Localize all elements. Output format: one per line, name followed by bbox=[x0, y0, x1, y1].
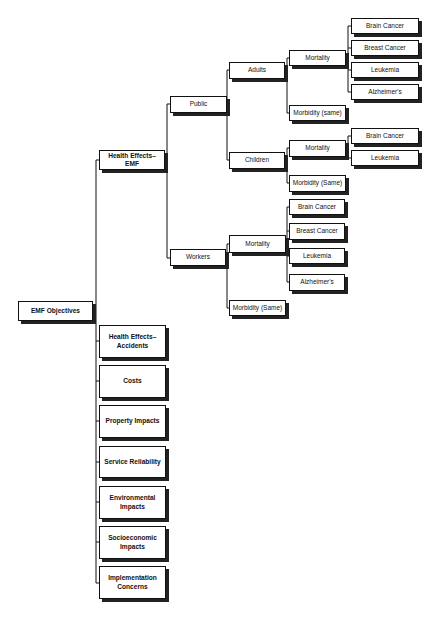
node-emf-objectives: EMF Objectives bbox=[18, 301, 93, 321]
node-adults-breast-cancer: Breast Cancer bbox=[351, 40, 419, 56]
node-public: Public bbox=[170, 96, 227, 113]
node-adults-leukemia: Leukemia bbox=[351, 62, 419, 78]
node-implementation-concerns: Implementation Concerns bbox=[99, 566, 166, 599]
node-workers-brain-cancer: Brain Cancer bbox=[289, 199, 345, 215]
node-health-effects-emf: Health Effects–EMF bbox=[99, 150, 165, 170]
node-socioeconomic-impacts: Socioeconomic Impacts bbox=[99, 526, 166, 559]
node-workers-alzheimers: Alzheimer's bbox=[289, 274, 345, 291]
node-property-impacts: Property Impacts bbox=[99, 405, 166, 438]
node-adults: Adults bbox=[229, 62, 285, 79]
node-children: Children bbox=[229, 152, 285, 169]
node-workers-leukemia: Leukemia bbox=[289, 248, 345, 264]
node-adults-alzheimers: Alzheimer's bbox=[351, 84, 419, 100]
node-workers: Workers bbox=[170, 249, 226, 266]
node-workers-morbidity: Morbidity (Same) bbox=[229, 300, 286, 316]
node-adults-mortality: Mortality bbox=[289, 50, 346, 66]
node-adults-morbidity: Morbidity (same) bbox=[289, 105, 346, 121]
node-costs: Costs bbox=[99, 365, 166, 398]
node-health-effects-accidents: Health Effects–Accidents bbox=[99, 325, 166, 358]
node-children-leukemia: Leukemia bbox=[351, 150, 419, 166]
node-environmental-impacts: Environmental Impacts bbox=[99, 486, 166, 519]
node-children-mortality: Mortality bbox=[289, 140, 346, 157]
node-adults-brain-cancer: Brain Cancer bbox=[351, 18, 419, 34]
emf-objectives-diagram: EMF Objectives Health Effects–EMF Health… bbox=[0, 0, 440, 619]
node-service-reliability: Service Reliability bbox=[99, 446, 166, 478]
node-workers-breast-cancer: Breast Cancer bbox=[289, 223, 345, 240]
node-children-morbidity: Morbidity (Same) bbox=[289, 175, 346, 192]
node-children-brain-cancer: Brain Cancer bbox=[351, 128, 419, 144]
node-workers-mortality: Mortality bbox=[229, 235, 286, 253]
